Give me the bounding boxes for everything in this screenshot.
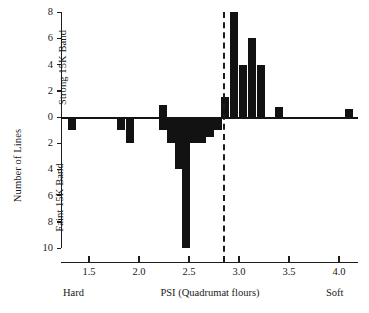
x-axis-tick bbox=[288, 256, 289, 262]
y-axis-tick-label: 8 bbox=[27, 7, 53, 18]
y-axis-tick-label: 2 bbox=[27, 138, 53, 149]
bar bbox=[230, 12, 238, 117]
bar bbox=[345, 109, 353, 117]
x-axis-spine bbox=[61, 262, 358, 263]
bar bbox=[190, 117, 198, 143]
bar bbox=[248, 38, 256, 117]
x-axis-tick bbox=[138, 256, 139, 262]
x-axis-tick-label: 2.0 bbox=[122, 267, 156, 278]
y-axis-tick-label: 2 bbox=[27, 86, 53, 97]
x-axis-tick bbox=[88, 256, 89, 262]
x-axis-tick-label: 2.5 bbox=[172, 267, 206, 278]
bar bbox=[159, 105, 167, 117]
x-axis-tick-label: 3.0 bbox=[222, 267, 256, 278]
bar bbox=[126, 117, 134, 143]
bar bbox=[159, 117, 167, 130]
bar bbox=[239, 65, 247, 117]
bar bbox=[206, 117, 214, 137]
x-axis-tick bbox=[238, 256, 239, 262]
bar bbox=[214, 117, 222, 130]
figure-canvas: Number of Lines Strong 15K Band Faint 15… bbox=[0, 0, 369, 313]
y-axis-tick-label: 10 bbox=[27, 243, 53, 254]
y-axis-tick-label: 0 bbox=[27, 112, 53, 123]
y-axis-tick-label: 6 bbox=[27, 33, 53, 44]
bar bbox=[182, 117, 190, 248]
x-axis-tick-label: 3.5 bbox=[272, 267, 306, 278]
x-axis-tick bbox=[188, 256, 189, 262]
y-axis-label: Number of Lines bbox=[12, 111, 23, 221]
y-axis-tick-label: 6 bbox=[27, 191, 53, 202]
y-axis-tick-label: 8 bbox=[27, 217, 53, 228]
x-axis-tick-label: 1.5 bbox=[72, 267, 106, 278]
bar bbox=[257, 65, 265, 117]
y-axis-tick-label: 4 bbox=[27, 60, 53, 71]
y-axis-tick-label: 4 bbox=[27, 164, 53, 175]
bar bbox=[275, 107, 283, 117]
threshold-line bbox=[223, 12, 225, 262]
plot-area bbox=[61, 12, 359, 248]
bar bbox=[68, 117, 76, 130]
x-axis-left-end-label: Hard bbox=[63, 288, 84, 299]
x-axis-tick bbox=[338, 256, 339, 262]
x-axis-tick-label: 4.0 bbox=[322, 267, 356, 278]
bar bbox=[117, 117, 125, 130]
bar bbox=[167, 117, 175, 143]
x-axis-title: PSI (Quadrumat flours) bbox=[110, 288, 310, 299]
bar bbox=[198, 117, 206, 143]
x-axis-right-end-label: Soft bbox=[326, 288, 344, 299]
